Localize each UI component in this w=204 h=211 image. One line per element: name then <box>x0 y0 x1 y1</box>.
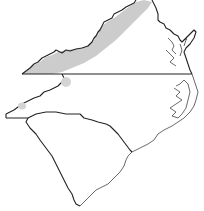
sc-coastline <box>80 152 132 206</box>
nc-range-patch-east <box>61 77 71 87</box>
south-carolina-outline <box>26 118 80 206</box>
range-map <box>0 0 204 211</box>
chesapeake-shoreline <box>166 38 186 66</box>
virginia-range-shading <box>22 0 152 74</box>
nc-range-patch-west <box>18 103 26 110</box>
island-dot <box>185 38 187 40</box>
pamlico-sound-shoreline <box>170 80 190 118</box>
